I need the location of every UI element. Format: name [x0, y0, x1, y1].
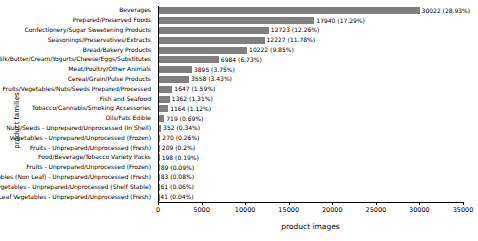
bar-row[interactable]: 41 (0.04%): [158, 194, 463, 201]
category-label: Vegetables (Non Leaf) - Unprepared/Unpro…: [0, 174, 151, 180]
bar-row[interactable]: 1164 (1.12%): [158, 105, 463, 112]
bar-row[interactable]: 198 (0.19%): [158, 154, 463, 161]
bar-row[interactable]: 12227 (11.78%): [158, 37, 463, 44]
bar-row[interactable]: 89 (0.09%): [158, 164, 463, 171]
bar[interactable]: [158, 47, 247, 54]
category-label: Confectionery/Sugar Sweetening Products: [25, 27, 152, 33]
y-axis-tick-labels: BeveragesPrepared/Preserved FoodsConfect…: [0, 6, 155, 202]
bar-value-label: 1362 (1.31%): [172, 96, 213, 102]
bar[interactable]: [158, 86, 172, 93]
bar-value-label: 41 (0.04%): [160, 194, 193, 200]
category-label: Fish and Seafood: [100, 96, 151, 102]
category-label: Cereal/Grain/Pulse Products: [68, 76, 151, 82]
x-axis-tick-label: 25000: [356, 206, 396, 214]
bar[interactable]: [158, 96, 170, 103]
plot-area: 30022 (28.93%)17940 (17.29%)12723 (12.26…: [158, 6, 463, 202]
bar-row[interactable]: 3558 (3.43%): [158, 76, 463, 83]
y-axis-line: [158, 6, 159, 202]
category-label: Milk/Butter/Cream/Yogurts/Cheese/Eggs/Su…: [0, 56, 151, 62]
bar-row[interactable]: 61 (0.06%): [158, 184, 463, 191]
bar-row[interactable]: 1647 (1.59%): [158, 86, 463, 93]
bar-value-label: 61 (0.06%): [161, 184, 194, 190]
bar-value-label: 352 (0.34%): [163, 125, 200, 131]
x-axis-tick-label: 20000: [312, 206, 352, 214]
category-label: Tobacco/Cannabis/Smoking Accessories: [32, 105, 151, 111]
bar-value-label: 270 (0.26%): [162, 135, 199, 141]
bar-row[interactable]: 6984 (6.73%): [158, 56, 463, 63]
bar[interactable]: [158, 37, 265, 44]
bar-value-label: 83 (0.08%): [161, 174, 194, 180]
category-label: Bread/Bakery Products: [83, 47, 151, 53]
bar-row[interactable]: 12723 (12.26%): [158, 27, 463, 34]
bar-value-label: 1647 (1.59%): [174, 86, 215, 92]
category-label: Fruits/Vegetables/Nuts/Seeds Prepared/Pr…: [2, 86, 151, 92]
category-label: Vegetables - Unprepared/Unprocessed (Fro…: [9, 135, 151, 141]
category-label: Fruits - Unprepared/Unprocessed (Frozen): [26, 164, 151, 170]
category-label: Beverages: [119, 7, 151, 13]
bar-value-label: 10222 (9.85%): [249, 47, 294, 53]
x-axis-tick-label: 0: [138, 206, 178, 214]
bar-row[interactable]: 10222 (9.85%): [158, 47, 463, 54]
x-axis-line: [158, 202, 463, 203]
bar-value-label: 1164 (1.12%): [170, 106, 211, 112]
x-axis-tick: [202, 202, 203, 205]
bar-value-label: 12723 (12.26%): [271, 27, 320, 33]
bar-value-label: 719 (0.69%): [166, 116, 203, 122]
category-label: Meat/Poultry/Other Animals: [68, 66, 151, 72]
category-label: Prepared/Preserved Foods: [73, 17, 151, 23]
bar-value-label: 209 (0.2%): [162, 145, 195, 151]
bar-row[interactable]: 3895 (3.75%): [158, 66, 463, 73]
bar-row[interactable]: 352 (0.34%): [158, 125, 463, 132]
bar-row[interactable]: 719 (0.69%): [158, 115, 463, 122]
category-label: Seasonings/Preservatives/Extracts: [48, 37, 151, 43]
bar[interactable]: [158, 7, 420, 14]
x-axis-tick-label: 15000: [269, 206, 309, 214]
bar-row[interactable]: 270 (0.26%): [158, 135, 463, 142]
bar-value-label: 17940 (17.29%): [316, 18, 365, 24]
bar-row[interactable]: 17940 (17.29%): [158, 17, 463, 24]
x-axis-tick-label: 10000: [225, 206, 265, 214]
bar[interactable]: [158, 27, 269, 34]
bar-row[interactable]: 209 (0.2%): [158, 145, 463, 152]
x-axis-tick-label: 30000: [399, 206, 439, 214]
bar-row[interactable]: 1362 (1.31%): [158, 96, 463, 103]
bar-value-label: 198 (0.19%): [162, 155, 199, 161]
x-axis-tick: [376, 202, 377, 205]
bar[interactable]: [158, 56, 219, 63]
x-axis-tick: [332, 202, 333, 205]
x-axis-title: product images: [158, 222, 463, 231]
category-label: Nuts/Seeds - Unprepared/Unprocessed (In …: [6, 125, 151, 131]
bar[interactable]: [158, 17, 314, 24]
category-label: Vegetables - Unprepared/Unprocessed (She…: [0, 184, 151, 190]
x-axis-tick: [245, 202, 246, 205]
bar-row[interactable]: 83 (0.08%): [158, 174, 463, 181]
x-axis-tick-label: 5000: [182, 206, 222, 214]
x-axis-tick: [158, 202, 159, 205]
bar-value-label: 3895 (3.75%): [194, 67, 235, 73]
bar-value-label: 3558 (3.43%): [191, 76, 232, 82]
bar-value-label: 12227 (11.78%): [267, 37, 316, 43]
bar-row[interactable]: 30022 (28.93%): [158, 7, 463, 14]
bar-value-label: 6984 (6.73%): [221, 57, 262, 63]
category-label: Fruits - Unprepared/Unprocessed (Fresh): [30, 145, 151, 151]
bar-value-label: 89 (0.09%): [161, 165, 194, 171]
category-label: Leaf Vegetables - Unprepared/Unprocessed…: [0, 194, 151, 200]
bar[interactable]: [158, 76, 189, 83]
bar-value-label: 30022 (28.93%): [422, 8, 471, 14]
x-axis-tick: [289, 202, 290, 205]
category-label: Food/Beverage/Tobacco Variety Packs: [38, 154, 151, 160]
bar[interactable]: [158, 66, 192, 73]
x-axis-tick: [419, 202, 420, 205]
category-label: Oils/Fats Edible: [105, 115, 151, 121]
x-axis-tick-label: 35000: [443, 206, 478, 214]
x-axis-tick: [463, 202, 464, 205]
bar[interactable]: [158, 105, 168, 112]
